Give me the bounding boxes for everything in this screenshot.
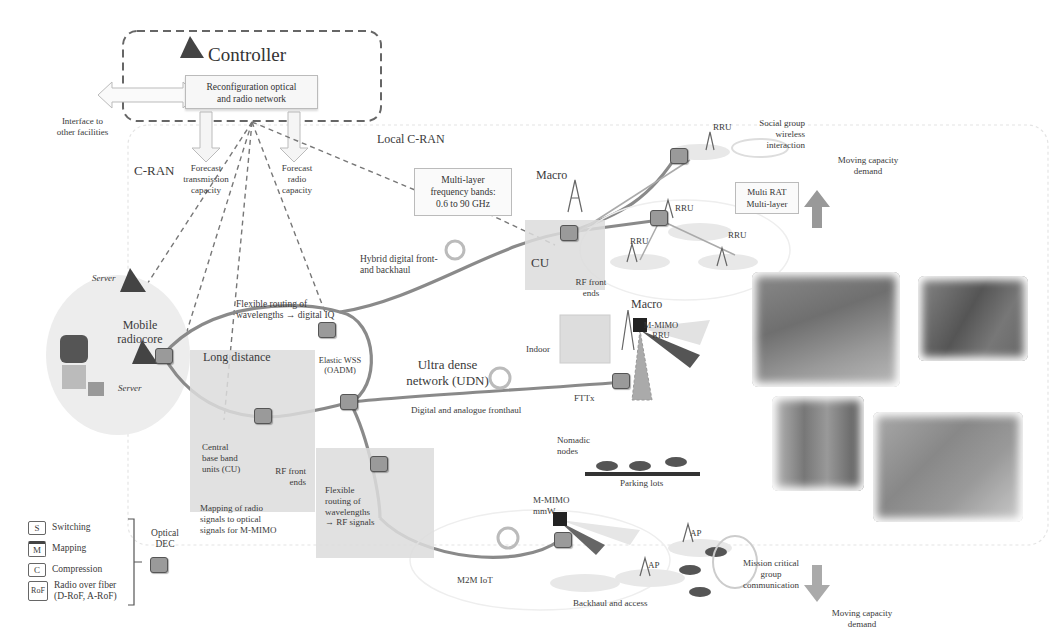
forecast-radio-label: Forecast radio capacity bbox=[275, 163, 319, 195]
mapping-radio-label: Mapping of radio signals to optical sign… bbox=[200, 503, 277, 535]
controller-box-line1: Reconfiguration optical bbox=[186, 81, 317, 93]
photo-humanoid-robot bbox=[772, 396, 864, 491]
rru-label-4: RRU bbox=[728, 230, 747, 241]
photo-traffic-intersection bbox=[752, 272, 900, 387]
node-rru-1[interactable] bbox=[670, 148, 688, 164]
udn-label: Ultra dense network (UDN) bbox=[400, 357, 495, 388]
macro-top-label: Macro bbox=[536, 168, 567, 182]
multi-rat-box: Multi RAT Multi-layer bbox=[735, 182, 799, 214]
node-wss-bottom[interactable] bbox=[340, 394, 358, 410]
switching-icon: S bbox=[28, 521, 46, 535]
rru-label-1: RRU bbox=[713, 122, 732, 133]
photo-robot-child bbox=[918, 276, 1028, 361]
cran-label: C-RAN bbox=[134, 163, 174, 179]
node-local-cu[interactable] bbox=[560, 225, 578, 241]
mmimo-rru-label: M-MIMO RRU bbox=[640, 320, 682, 340]
node-radiocore[interactable] bbox=[155, 348, 173, 364]
nomadic-nodes-label: Nomadic nodes bbox=[557, 435, 590, 457]
fttx-label: FTTx bbox=[574, 393, 595, 404]
moving-demand-down-label: Moving capacity demand bbox=[822, 608, 902, 630]
hybrid-fronthaul-label: Hybrid digital front- and backhaul bbox=[360, 254, 438, 277]
frequency-bands-box: Multi-layer frequency bands: 0.6 to 90 G… bbox=[414, 168, 512, 216]
social-group-label: Social group wireless interaction bbox=[735, 118, 805, 150]
node-udn[interactable] bbox=[612, 373, 630, 389]
rof-icon: RoF bbox=[28, 581, 48, 601]
server-top-label: Server bbox=[92, 273, 116, 284]
rru-label-2: RRU bbox=[675, 203, 694, 214]
legend-item-compression: CCompression bbox=[28, 559, 117, 580]
optical-dec-label: Optical DEC bbox=[145, 528, 185, 551]
fronthaul-label: Digital and analogue fronthaul bbox=[411, 405, 521, 416]
compression-icon: C bbox=[28, 563, 46, 577]
local-cran-label: Local C-RAN bbox=[377, 132, 445, 146]
mmimo-mmw-label: M-MIMO mmW bbox=[533, 495, 570, 517]
mission-critical-label: Mission critical group communication bbox=[735, 558, 807, 590]
m2m-iot-label: M2M IoT bbox=[457, 575, 493, 586]
rf-front-ends-label: RF front ends bbox=[260, 466, 306, 488]
node-rru-2[interactable] bbox=[650, 210, 668, 226]
mobile-radiocore-label: Mobile radiocore bbox=[110, 318, 170, 347]
rf-front-ends-top-label: RF front ends bbox=[568, 277, 614, 299]
rru-label-3: RRU bbox=[630, 236, 649, 247]
node-flex-rf[interactable] bbox=[370, 456, 388, 472]
ap-label-1: AP bbox=[690, 528, 702, 539]
cu-label: CU bbox=[531, 255, 549, 271]
parking-lots-label: Parking lots bbox=[620, 478, 663, 489]
controller-box-line2: and radio network bbox=[186, 93, 317, 105]
server-bottom-label: Server bbox=[118, 383, 142, 394]
controller-title: Controller bbox=[208, 44, 286, 67]
macro-udn-label: Macro bbox=[631, 297, 662, 311]
long-distance-panel bbox=[190, 350, 315, 512]
node-mmw[interactable] bbox=[554, 532, 572, 548]
controller-box[interactable]: Reconfiguration optical and radio networ… bbox=[185, 75, 318, 109]
forecast-transmission-label: Forecast transmission capacity bbox=[178, 163, 234, 195]
node-wss-top[interactable] bbox=[318, 322, 336, 338]
legend-item-mapping: MMapping bbox=[28, 538, 117, 559]
indoor-label: Indoor bbox=[526, 344, 550, 355]
flex-routing-iq-label: Flexible routing of wavelengths → digita… bbox=[236, 299, 334, 322]
node-cu-long[interactable] bbox=[254, 408, 272, 424]
backhaul-access-label: Backhaul and access bbox=[573, 598, 647, 609]
interface-label: Interface to other facilities bbox=[45, 116, 120, 138]
ap-label-2: AP bbox=[648, 560, 660, 571]
elastic-wss-label: Elastic WSS (OADM) bbox=[310, 355, 370, 375]
legend: SSwitching MMapping CCompression RoFRadi… bbox=[28, 517, 117, 602]
legend-item-switching: SSwitching bbox=[28, 517, 117, 538]
central-baseband-label: Central base band units (CU) bbox=[202, 442, 240, 474]
photo-hand-device bbox=[873, 412, 1023, 522]
node-optical-dec[interactable] bbox=[150, 557, 168, 573]
flex-routing-rf-label: Flexible routing of wavelengths → RF sig… bbox=[325, 485, 375, 528]
moving-demand-up-label: Moving capacity demand bbox=[828, 155, 908, 177]
mapping-icon: M bbox=[28, 541, 46, 557]
long-distance-label: Long distance bbox=[203, 350, 271, 364]
legend-item-rof: RoFRadio over fiber(D-RoF, A-RoF) bbox=[28, 580, 117, 602]
